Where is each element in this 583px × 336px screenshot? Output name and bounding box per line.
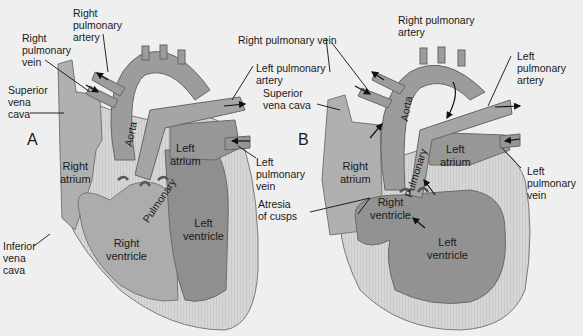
label-a-superior-vena-cava: Superior vena cava <box>8 84 48 120</box>
heart-diagram: A Right pulmonary artery Right pulmonary… <box>0 0 583 336</box>
panel-b-letter: B <box>298 131 309 149</box>
label-a-left-pulmonary-artery: Left pulmonary artery <box>256 62 325 86</box>
label-b-superior-vena-cava: Superior vena cava <box>263 87 311 111</box>
label-b-right-pulmonary-artery: Right pulmonary artery <box>398 14 474 38</box>
label-a-right-ventricle: Right ventricle <box>106 237 147 263</box>
label-b-right-atrium: Right atrium <box>340 160 371 186</box>
label-b-left-ventricle: Left ventricle <box>427 236 468 262</box>
label-a-inferior-vena-cava: Inferior vena cava <box>3 240 36 276</box>
label-b-right-pulmonary-vein: Right pulmonary vein <box>238 34 337 46</box>
label-b-left-pulmonary-artery: Left pulmonary artery <box>517 50 566 86</box>
label-a-left-atrium: Left atrium <box>170 142 201 168</box>
label-a-right-pulmonary-artery: Right pulmonary artery <box>73 7 122 43</box>
label-b-left-pulmonary-vein: Left pulmonary vein <box>527 165 576 201</box>
label-a-left-ventricle: Left ventricle <box>183 217 224 243</box>
panel-a-letter: A <box>27 131 38 149</box>
label-b-left-atrium: Left atrium <box>440 143 471 169</box>
label-a-left-pulmonary-vein: Left pulmonary vein <box>256 156 305 192</box>
label-b-atresia-of-cusps: Atresia of cusps <box>258 198 297 222</box>
label-a-right-atrium: Right atrium <box>60 160 91 186</box>
label-b-right-ventricle: Right ventricle <box>370 196 411 222</box>
label-a-right-pulmonary-vein: Right pulmonary vein <box>22 32 71 68</box>
